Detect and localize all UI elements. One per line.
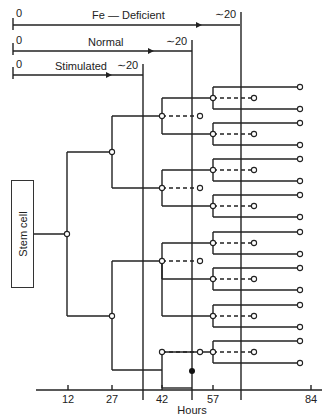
fe-deficient-end: ∼20: [215, 8, 236, 20]
x-tick-57: 57: [207, 393, 219, 405]
normal-start: 0: [16, 34, 22, 46]
x-tick-42: 42: [156, 393, 168, 405]
fe-deficient-start: 0: [16, 7, 22, 19]
x-tick-84: 84: [305, 393, 317, 405]
lineage-tree-graphic: [0, 0, 332, 417]
normal-label: Normal: [88, 36, 123, 48]
stem-cell-box: Stem cell: [11, 180, 34, 288]
x-tick-12: 12: [62, 393, 74, 405]
stem-cell-label: Stem cell: [17, 211, 29, 256]
x-axis-label: Hours: [177, 404, 206, 416]
fe-deficient-label: Fe — Deficient: [92, 9, 165, 21]
stimulated-label: Stimulated: [55, 60, 107, 72]
normal-end: ∼20: [166, 35, 187, 47]
stimulated-start: 0: [16, 58, 22, 70]
stimulated-end: ∼20: [117, 59, 138, 71]
x-tick-27: 27: [106, 393, 118, 405]
